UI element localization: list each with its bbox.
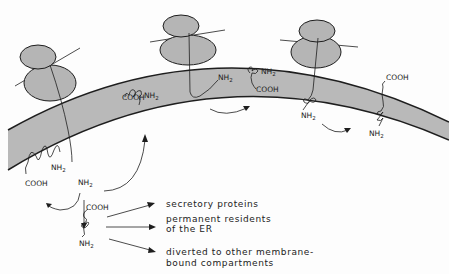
fate-secretory: secretory proteins <box>166 199 259 209</box>
fate-arrow <box>109 239 150 250</box>
arrow-head <box>243 106 250 111</box>
arrow-head <box>344 128 351 133</box>
cooh-label: COOH <box>122 93 145 102</box>
arrow-head <box>148 247 156 253</box>
arrow-head <box>147 202 155 208</box>
fate-arrow <box>107 205 150 217</box>
nh2-label: NH2 <box>79 239 94 249</box>
cooh-label: COOH <box>86 203 109 212</box>
cooh-label: COOH <box>25 179 48 188</box>
nh2-label: NH2 <box>261 67 276 77</box>
arrow-curve <box>210 108 247 113</box>
fate-er-residents-line1: permanent residents <box>166 214 271 224</box>
arrow-curve <box>48 193 80 210</box>
fate-diverted-line1: diverted to other membrane- <box>166 247 314 257</box>
fate-diverted-line2: bound compartments <box>166 258 274 268</box>
nh2-label: NH2 <box>78 178 93 188</box>
cooh-label: COOH <box>386 73 409 82</box>
nh2-label: NH2 <box>301 111 316 121</box>
arrow-curve <box>104 140 145 191</box>
nh2-label: NH2 <box>51 163 66 173</box>
er-translocation-diagram: NH2 COOH NH2 COOH NH2 NH2 NH2 COOH NH2 C… <box>0 0 449 274</box>
fate-er-residents-line2: of the ER <box>166 224 213 234</box>
nh2-label: NH2 <box>369 129 384 139</box>
arrow-head <box>149 224 156 230</box>
arrow-head <box>142 134 148 142</box>
cooh-label: COOH <box>256 85 279 94</box>
